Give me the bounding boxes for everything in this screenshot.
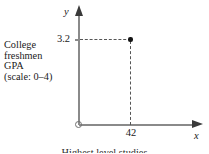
x-axis-line [79, 124, 194, 126]
origin-marker-icon [75, 121, 82, 128]
x-axis-tick-label: 42 [118, 128, 144, 139]
bottom-caption: Highest level studies [0, 148, 209, 154]
y-axis-label: y [64, 7, 69, 18]
vertical-dashed-guide [130, 41, 131, 125]
y-axis-caption-line-4: (scale: 0–4) [4, 72, 76, 83]
y-axis-caption-line-1: College [4, 40, 76, 51]
x-axis-label: x [194, 131, 199, 142]
x-axis-arrow-icon [192, 120, 203, 128]
y-axis-caption: College freshmen GPA (scale: 0–4) [4, 40, 76, 82]
horizontal-dashed-guide [80, 39, 131, 40]
data-point-marker [128, 37, 132, 41]
coordinate-plane-figure: y x 3.2 42 College freshmen GPA (scale: … [0, 0, 209, 153]
y-axis-line [78, 14, 80, 125]
y-axis-arrow-icon [75, 5, 83, 16]
